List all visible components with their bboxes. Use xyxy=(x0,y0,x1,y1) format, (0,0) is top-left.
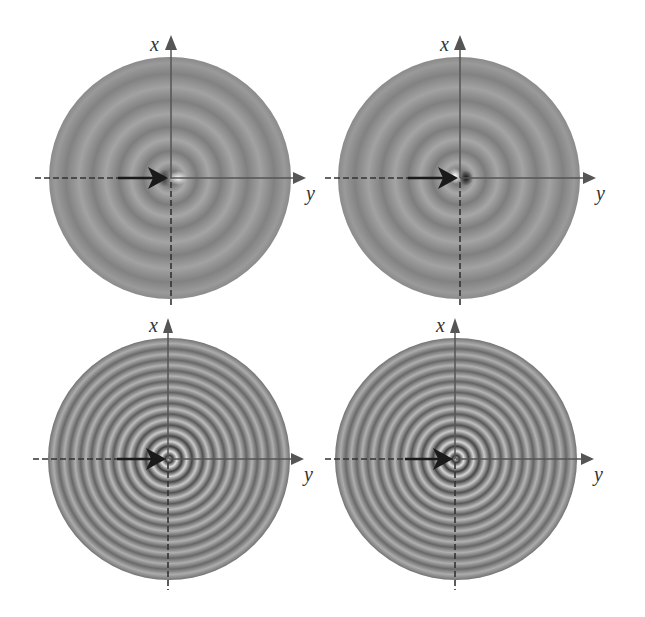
x-axis-label: x xyxy=(148,314,158,336)
panel-top-right: x y xyxy=(325,33,605,308)
panel-bottom-right: x y xyxy=(325,314,603,590)
y-axis-arrowhead-icon xyxy=(293,172,306,184)
panel-top-left: x y xyxy=(35,33,315,308)
x-axis-label: x xyxy=(149,33,159,55)
x-axis-arrowhead-icon xyxy=(450,318,460,333)
x-axis-arrowhead-icon xyxy=(454,35,466,50)
x-axis-arrowhead-icon xyxy=(165,35,177,50)
x-axis-arrowhead-icon xyxy=(163,318,173,333)
y-axis-label: y xyxy=(304,182,315,205)
figure-canvas: x y x y xyxy=(0,0,645,617)
y-axis-label: y xyxy=(594,182,605,205)
y-axis-arrowhead-icon xyxy=(291,453,304,465)
figure: x y x y xyxy=(0,0,645,617)
panel-bottom-left: x y xyxy=(33,314,313,590)
y-axis-label: y xyxy=(302,463,313,486)
y-axis-arrowhead-icon xyxy=(583,172,596,184)
x-axis-label: x xyxy=(439,33,449,55)
x-axis-label: x xyxy=(435,314,445,336)
y-axis-arrowhead-icon xyxy=(581,453,594,465)
y-axis-label: y xyxy=(592,463,603,486)
